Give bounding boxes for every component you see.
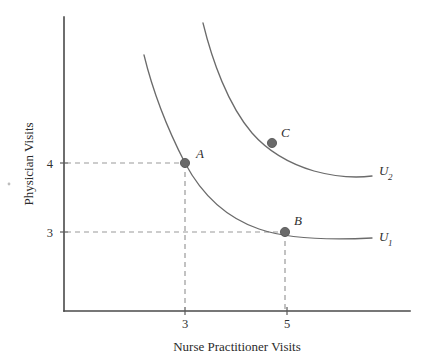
indifference-curve-u1 bbox=[144, 55, 372, 239]
data-point-label-c: C bbox=[281, 125, 290, 140]
curve-label-u2-subscript: 2 bbox=[388, 172, 393, 182]
data-point-a[interactable] bbox=[180, 158, 189, 167]
x-axis-title: Nurse Practitioner Visits bbox=[173, 339, 301, 354]
ytick-label-3: 3 bbox=[47, 226, 53, 240]
data-point-b[interactable] bbox=[280, 227, 289, 236]
data-point-c[interactable] bbox=[267, 138, 276, 147]
curves-group bbox=[144, 23, 372, 239]
indifference-curve-u2 bbox=[203, 23, 372, 177]
scan-speck bbox=[8, 183, 11, 186]
tick-marks-group bbox=[60, 163, 287, 315]
y-axis-title: Physician Visits bbox=[21, 122, 36, 205]
data-point-label-a: A bbox=[195, 146, 204, 161]
axes-group bbox=[64, 17, 410, 311]
xtick-label-3: 3 bbox=[182, 317, 188, 331]
xtick-label-5: 5 bbox=[284, 317, 290, 331]
guide-lines-group bbox=[66, 163, 285, 309]
curve-label-u1-subscript: 1 bbox=[388, 238, 393, 248]
data-point-label-b: B bbox=[294, 213, 302, 228]
indifference-curve-figure: A B C U 2 U 1 4 3 3 5 Physician Visits N… bbox=[0, 0, 432, 359]
chart-canvas: A B C U 2 U 1 4 3 3 5 Physician Visits N… bbox=[0, 0, 432, 359]
ytick-label-4: 4 bbox=[47, 157, 54, 171]
curve-label-u1: U 1 bbox=[379, 229, 393, 248]
curve-label-u2: U 2 bbox=[379, 163, 393, 182]
